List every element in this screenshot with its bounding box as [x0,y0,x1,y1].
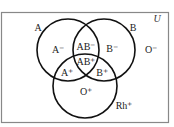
region-o-neg: O⁻ [145,44,157,55]
universe-frame [2,13,169,123]
blood-type-venn-diagram: U A B Rh⁺ A⁻ AB⁻ B⁻ O⁻ AB⁺ A⁺ B⁺ O⁺ [0,0,174,127]
region-o-pos: O⁺ [80,86,92,97]
region-ab-neg: AB⁻ [77,41,96,52]
region-a-neg: A⁻ [52,44,64,55]
region-b-pos: B⁺ [96,67,108,78]
region-a-pos: A⁺ [61,67,73,78]
universe-label: U [153,13,161,24]
region-ab-pos: AB⁺ [77,56,96,67]
region-b-neg: B⁻ [106,43,118,54]
set-b-label: B [130,22,137,33]
set-a-label: A [34,22,42,33]
set-rh-label: Rh⁺ [116,100,133,111]
